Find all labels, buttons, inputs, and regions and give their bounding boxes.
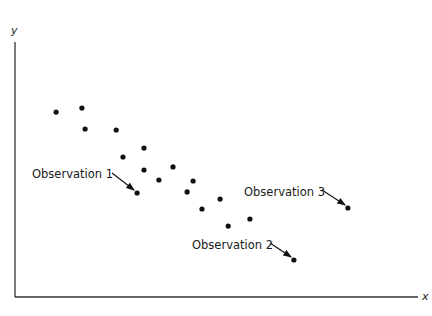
data-point xyxy=(191,178,196,183)
data-point-observation-2 xyxy=(291,257,296,262)
y-axis-label: y xyxy=(10,24,18,37)
data-point xyxy=(83,126,88,131)
annotation-observation-2: Observation 2 xyxy=(192,238,291,257)
annotation-observation-1: Observation 1 xyxy=(32,167,134,190)
data-point xyxy=(199,206,204,211)
data-point xyxy=(170,164,175,169)
data-point xyxy=(54,110,59,115)
x-axis-label: x xyxy=(421,290,429,303)
data-point xyxy=(79,105,84,110)
annotation-label: Observation 2 xyxy=(192,238,273,252)
data-point xyxy=(156,177,161,182)
arrow-icon xyxy=(112,173,134,190)
data-point xyxy=(114,127,119,132)
data-point xyxy=(120,154,125,159)
data-point-observation-1 xyxy=(135,190,140,195)
arrow-icon xyxy=(322,190,345,205)
annotation-label: Observation 3 xyxy=(244,185,325,199)
data-point xyxy=(247,216,252,221)
annotation-label: Observation 1 xyxy=(32,167,113,181)
data-point xyxy=(218,197,223,202)
annotation-observation-3: Observation 3 xyxy=(244,185,345,205)
arrow-icon xyxy=(270,243,291,257)
data-point xyxy=(185,189,190,194)
data-point xyxy=(141,167,146,172)
data-point xyxy=(141,146,146,151)
scatter-chart: y x Observation 1 Observation 2 Observat… xyxy=(0,0,432,316)
data-point-observation-3 xyxy=(345,205,350,210)
data-point xyxy=(226,224,231,229)
